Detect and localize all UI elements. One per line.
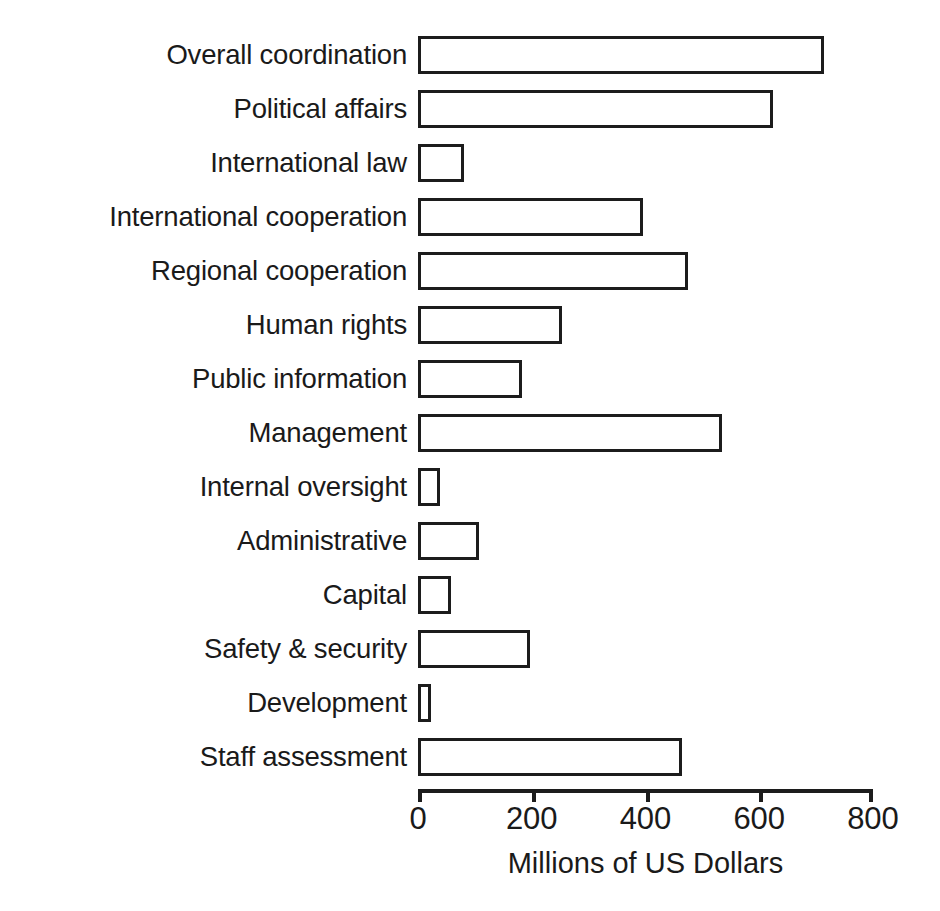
bar [418,252,688,290]
bar [418,684,431,722]
bar-row: International law [0,144,940,198]
bar-row: Management [0,414,940,468]
bar-track [418,252,688,290]
bar [418,36,824,74]
bar-category-label: Administrative [0,524,407,558]
x-axis-tick-label: 0 [358,800,478,838]
bar-category-label: Political affairs [0,92,407,126]
x-axis-title: Millions of US Dollars [418,845,873,881]
bar-category-label: Staff assessment [0,740,407,774]
bar-track [418,630,530,668]
bar-category-label: Capital [0,578,407,612]
x-axis-tick-label: 400 [586,800,706,838]
bar-category-label: Overall coordination [0,38,407,72]
bar-track [418,306,562,344]
bar-track [418,360,522,398]
bar-row: Safety & security [0,630,940,684]
bar-category-label: International cooperation [0,200,407,234]
bar-track [418,414,722,452]
bar-track [418,144,464,182]
bar-track [418,684,431,722]
bar [418,738,682,776]
x-axis-tick-label: 800 [813,800,933,838]
plot-area: Overall coordinationPolitical affairsInt… [0,0,940,911]
bar-row: Human rights [0,306,940,360]
bar-category-label: Management [0,416,407,450]
bar-category-label: Human rights [0,308,407,342]
bar-row: Overall coordination [0,36,940,90]
bar-row: Capital [0,576,940,630]
bar-category-label: Regional cooperation [0,254,407,288]
bar-category-label: Internal oversight [0,470,407,504]
bar [418,144,464,182]
bar-track [418,522,479,560]
bar-chart: Overall coordinationPolitical affairsInt… [0,0,940,911]
bar [418,630,530,668]
bar-row: Internal oversight [0,468,940,522]
bar-row: International cooperation [0,198,940,252]
bar-category-label: Safety & security [0,632,407,666]
bar-track [418,468,440,506]
bar-track [418,738,682,776]
bar-category-label: Development [0,686,407,720]
bar [418,414,722,452]
bar [418,468,440,506]
bar-row: Administrative [0,522,940,576]
bar-track [418,576,451,614]
bar-row: Development [0,684,940,738]
bar-track [418,90,773,128]
x-axis-tick-label: 200 [472,800,592,838]
x-axis-tick-label: 600 [699,800,819,838]
bar-category-label: Public information [0,362,407,396]
bar-row: Public information [0,360,940,414]
bar-row: Regional cooperation [0,252,940,306]
bar-track [418,36,824,74]
bar [418,360,522,398]
bar-category-label: International law [0,146,407,180]
bar [418,576,451,614]
bar-row: Staff assessment [0,738,940,792]
bar [418,90,773,128]
bar [418,306,562,344]
bar-track [418,198,643,236]
bar [418,198,643,236]
bar-row: Political affairs [0,90,940,144]
bar [418,522,479,560]
